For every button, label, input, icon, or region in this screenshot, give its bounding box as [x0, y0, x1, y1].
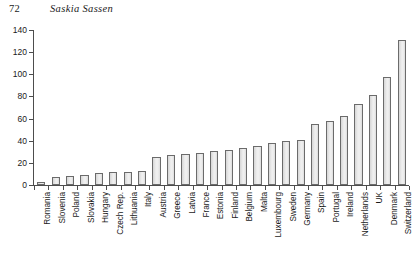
- y-axis-tick-labels: 020406080100120140: [0, 30, 27, 185]
- x-tick-mark: [92, 186, 93, 190]
- bar-rect: [268, 143, 276, 185]
- bar: [167, 30, 175, 185]
- y-tick-label: 120: [13, 48, 27, 57]
- bar-rect: [124, 172, 132, 185]
- x-category-label: Lithuania: [131, 192, 139, 225]
- bar: [398, 30, 406, 185]
- bar: [95, 30, 103, 185]
- bar-rect: [167, 155, 175, 185]
- bars-container: [34, 30, 409, 185]
- x-tick-mark: [294, 186, 295, 190]
- bar: [66, 30, 74, 185]
- x-category-label: UK: [376, 192, 384, 203]
- x-category-label: Estonia: [217, 192, 225, 219]
- x-category-label: Belgium: [246, 192, 254, 222]
- x-tick-mark: [409, 186, 410, 190]
- bar-rect: [196, 153, 204, 185]
- bar-rect: [95, 173, 103, 185]
- bar: [109, 30, 117, 185]
- x-category-label: Hungary: [102, 192, 110, 223]
- bar: [196, 30, 204, 185]
- x-tick-mark: [164, 186, 165, 190]
- x-category-label: Switzerland: [405, 192, 413, 234]
- x-category-label: Italy: [145, 192, 153, 207]
- bar-rect: [282, 141, 290, 185]
- bar: [239, 30, 247, 185]
- x-category-label: Slovakia: [88, 192, 96, 223]
- x-tick-mark: [395, 186, 396, 190]
- bar: [80, 30, 88, 185]
- x-axis-category-labels: RomaniaSloveniaPolandSlovakiaHungaryCzec…: [34, 192, 409, 266]
- y-tick-label: 0: [22, 181, 27, 190]
- x-tick-mark: [77, 186, 78, 190]
- bar: [124, 30, 132, 185]
- x-tick-mark: [135, 186, 136, 190]
- x-category-label: Sweden: [290, 192, 298, 222]
- running-title: Saskia Sassen: [50, 3, 113, 14]
- bar: [253, 30, 261, 185]
- bar: [181, 30, 189, 185]
- bar: [152, 30, 160, 185]
- bar-rect: [239, 148, 247, 185]
- y-tick-mark: [29, 163, 33, 164]
- bar-rect: [354, 104, 362, 185]
- x-tick-mark: [366, 186, 367, 190]
- y-tick-label: 60: [18, 114, 27, 123]
- y-tick-label: 20: [18, 159, 27, 168]
- x-tick-mark: [337, 186, 338, 190]
- bar-rect: [109, 172, 117, 185]
- bar: [37, 30, 45, 185]
- x-category-label: Austria: [160, 192, 168, 217]
- x-tick-mark: [222, 186, 223, 190]
- bar: [340, 30, 348, 185]
- bar-rect: [383, 77, 391, 186]
- x-tick-mark: [48, 186, 49, 190]
- x-category-label: Portugal: [333, 192, 341, 223]
- x-category-label: Luxembourg: [275, 192, 283, 238]
- bar-rect: [138, 171, 146, 185]
- x-category-label: Slovenia: [59, 192, 67, 223]
- y-tick-mark: [29, 52, 33, 53]
- x-tick-mark: [351, 186, 352, 190]
- y-tick-label: 80: [18, 92, 27, 101]
- x-category-label: Poland: [73, 192, 81, 218]
- y-tick-mark: [29, 141, 33, 142]
- bar-rect: [398, 40, 406, 185]
- x-category-label: Ireland: [347, 192, 355, 217]
- x-tick-mark: [322, 186, 323, 190]
- x-tick-mark: [250, 186, 251, 190]
- x-category-label: France: [203, 192, 211, 217]
- x-tick-mark: [265, 186, 266, 190]
- bar-rect: [225, 150, 233, 185]
- page-root: 72 Saskia Sassen 020406080100120140 Roma…: [0, 0, 413, 266]
- x-tick-mark: [121, 186, 122, 190]
- bar: [282, 30, 290, 185]
- x-tick-mark: [149, 186, 150, 190]
- bar-rect: [311, 124, 319, 185]
- bar-rect: [369, 95, 377, 185]
- bar: [354, 30, 362, 185]
- x-category-label: Malta: [261, 192, 269, 212]
- bar: [210, 30, 218, 185]
- bar-rect: [253, 146, 261, 185]
- bar: [52, 30, 60, 185]
- x-tick-mark: [236, 186, 237, 190]
- bar: [383, 30, 391, 185]
- bar-chart: 020406080100120140 RomaniaSloveniaPoland…: [0, 22, 413, 266]
- x-category-label: Romania: [44, 192, 52, 225]
- bar-rect: [37, 182, 45, 185]
- x-category-label: Greece: [174, 192, 182, 219]
- x-axis-ticks: [34, 186, 409, 190]
- bar: [268, 30, 276, 185]
- bar-rect: [52, 177, 60, 185]
- y-tick-mark: [29, 74, 33, 75]
- y-tick-mark: [29, 96, 33, 97]
- x-category-label: Netherlands: [362, 192, 370, 236]
- x-tick-mark: [380, 186, 381, 190]
- x-category-label: Denmark: [391, 192, 399, 225]
- bar: [326, 30, 334, 185]
- running-head: 72 Saskia Sassen: [0, 0, 413, 22]
- x-tick-mark: [279, 186, 280, 190]
- page-number: 72: [9, 3, 20, 14]
- y-tick-mark: [29, 185, 33, 186]
